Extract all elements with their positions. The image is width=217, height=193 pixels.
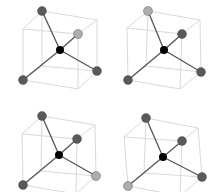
ligand-atom: [93, 67, 102, 76]
cube-edge: [180, 34, 182, 89]
cube-edge: [124, 137, 182, 141]
ligand-atom: [38, 7, 47, 16]
cube-edge: [144, 173, 202, 177]
panel-top-right: [124, 7, 206, 90]
highlighted-ligand-atom: [92, 172, 101, 181]
cube-edge: [146, 118, 198, 128]
cube-edge: [95, 125, 96, 176]
panel-top-left: [19, 7, 102, 90]
cube-edge: [127, 28, 128, 80]
cube-edge: [23, 185, 76, 192]
center-atom: [159, 153, 167, 161]
ligand-atom: [124, 76, 133, 85]
center-atom: [55, 151, 63, 159]
ligand-atom: [178, 137, 187, 146]
cube-edge: [198, 128, 202, 177]
highlighted-ligand-atom: [74, 30, 83, 39]
bond-line: [128, 157, 163, 186]
cube-edge: [42, 116, 95, 125]
cube-edge: [23, 80, 78, 89]
center-atom: [160, 46, 168, 54]
ligand-atom: [73, 135, 82, 144]
bond-line: [163, 157, 202, 177]
cube-edge: [144, 118, 146, 173]
cube-edge: [41, 116, 42, 171]
highlighted-ligand-atom: [144, 7, 153, 16]
cube-edge: [128, 186, 180, 192]
bond-line: [42, 11, 60, 50]
diagram-panels: [19, 7, 207, 193]
bond-line: [128, 50, 164, 80]
cube-edge: [200, 20, 201, 72]
ligand-atom: [142, 114, 151, 123]
panel-bottom-right: [124, 114, 207, 193]
ligand-atom: [19, 181, 28, 190]
ligand-atom: [38, 112, 47, 121]
bond-line: [23, 50, 60, 80]
highlighted-ligand-atom: [124, 182, 133, 191]
ligand-atom: [197, 68, 206, 77]
ligand-atom: [198, 173, 207, 182]
cube-edge: [146, 11, 148, 66]
tetrahedral-cube-diagram: [0, 0, 217, 192]
cube-edge: [128, 80, 180, 89]
cube-edge: [22, 134, 23, 185]
bond-line: [42, 116, 59, 155]
panel-bottom-left: [19, 112, 101, 193]
ligand-atom: [178, 30, 187, 39]
cube-edge: [124, 137, 128, 186]
cube-edge: [42, 11, 97, 20]
center-atom: [56, 46, 64, 54]
cube-edge: [127, 28, 182, 34]
cube-edge: [148, 11, 200, 20]
bond-line: [146, 118, 163, 157]
ligand-atom: [19, 76, 28, 85]
